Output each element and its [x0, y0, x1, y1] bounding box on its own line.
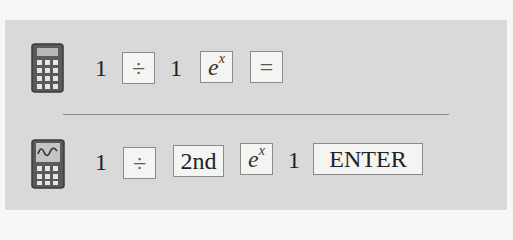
- equals-key[interactable]: =: [250, 51, 283, 83]
- equals-key-label: =: [260, 54, 274, 81]
- exp-key[interactable]: ex: [240, 143, 273, 175]
- divide-key[interactable]: ÷: [122, 52, 155, 84]
- keystroke-digit: 1: [288, 148, 300, 172]
- keystroke-digit: 1: [170, 56, 182, 80]
- divide-key[interactable]: ÷: [123, 147, 156, 179]
- divider: [63, 114, 449, 115]
- enter-key[interactable]: ENTER: [313, 143, 423, 175]
- exp-key-label: ex: [208, 54, 225, 81]
- exp-key[interactable]: ex: [200, 51, 233, 83]
- keystroke-digit: 1: [95, 150, 107, 174]
- calculator-keystroke-panel: [5, 20, 507, 210]
- divide-key-label: ÷: [133, 150, 146, 177]
- enter-key-label: ENTER: [329, 146, 406, 173]
- graphing-calculator-icon: [31, 139, 65, 189]
- divide-key-label: ÷: [132, 55, 145, 82]
- keystroke-digit: 1: [95, 56, 107, 80]
- scientific-calculator-icon: [31, 43, 64, 93]
- exp-key-label: ex: [248, 146, 265, 173]
- second-key[interactable]: 2nd: [173, 145, 224, 177]
- second-key-label: 2nd: [181, 148, 217, 175]
